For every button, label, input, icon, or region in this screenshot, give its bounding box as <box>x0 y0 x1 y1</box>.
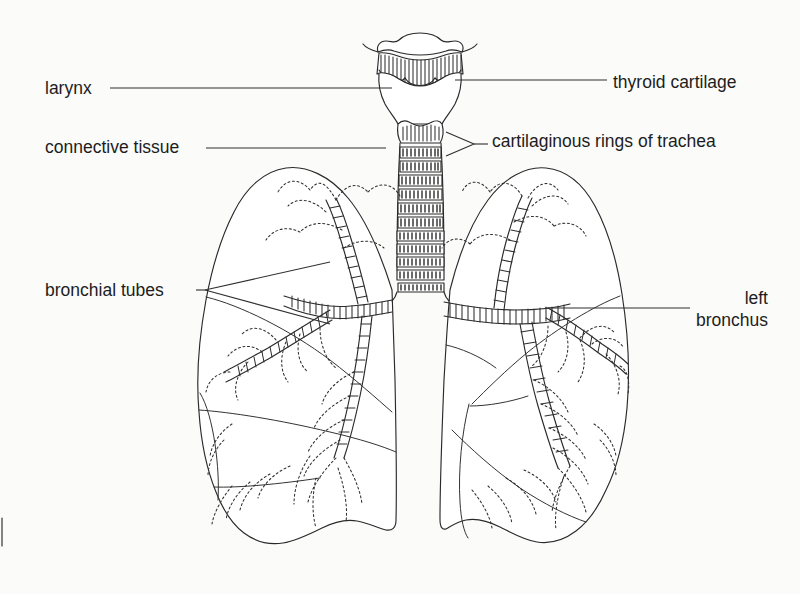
label-bronchial-tubes: bronchial tubes <box>45 279 164 301</box>
label-thyroid-cartilage: thyroid cartilage <box>613 71 737 93</box>
left-lung <box>440 168 629 543</box>
right-lung <box>198 168 400 544</box>
label-larynx: larynx <box>45 77 92 99</box>
diagram-canvas: .ln{fill:none;stroke:#2a2a2a;stroke-widt… <box>0 0 800 594</box>
label-left-bronchus: left bronchus <box>608 287 768 331</box>
label-connective-tissue: connective tissue <box>45 136 179 158</box>
label-left-bronchus-line1: left <box>608 287 768 309</box>
label-cartilaginous-rings: cartilaginous rings of trachea <box>492 130 716 152</box>
leader-rings-wedge <box>446 132 474 156</box>
trachea-structure <box>397 143 444 292</box>
label-left-bronchus-line2: bronchus <box>608 309 768 331</box>
carina <box>392 292 449 301</box>
trachea-cartilage-rings <box>397 147 444 292</box>
